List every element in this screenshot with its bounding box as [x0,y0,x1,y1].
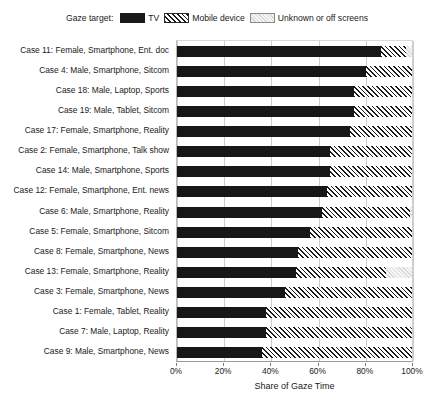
x-tick-label: 60% [309,366,326,376]
gaze-share-stacked-bar-chart: Gaze target: TV Mobile device Unknown or… [0,0,434,415]
legend-title: Gaze target: [66,13,113,23]
gridline [413,41,414,361]
bar-segment-mobile [354,86,412,97]
bar-segment-mobile [285,287,412,298]
bar-segment-mobile [262,347,412,358]
legend-swatch-unknown-icon [250,13,275,23]
bar-segment-tv [177,86,354,97]
bar-segment-tv [177,307,266,318]
x-tick-label: 0% [170,366,182,376]
x-tick-label: 40% [262,366,279,376]
category-label: Case 8: Female, Smartphone, News [34,246,169,257]
bar-segment-mobile [327,186,412,197]
bar-row [177,347,412,358]
x-tick-label: 100% [401,366,422,376]
bar-segment-mobile [330,166,412,177]
legend-label-mobile: Mobile device [192,13,245,23]
category-label: Case 2: Female, Smartphone, Talk show [18,145,169,156]
bar-row [177,166,412,177]
x-axis-title: Share of Gaze Time [176,381,413,391]
bar-row [177,46,412,57]
legend-entry-tv: TV [120,13,159,23]
category-label: Case 7: Male, Laptop, Reality [59,326,169,337]
bar-segment-mobile [298,247,412,258]
category-label: Case 11: Female, Smartphone, Ent. doc [20,45,169,56]
bar-segment-mobile [296,267,386,278]
bar-row [177,247,412,258]
category-axis-labels: Case 11: Female, Smartphone, Ent. docCas… [0,40,174,362]
category-label: Case 14: Male, Smartphone, Sports [36,165,169,176]
legend-entry-mobile: Mobile device [164,13,245,23]
bar-segment-tv [177,327,266,338]
category-label: Case 13: Female, Smartphone, Reality [25,266,169,277]
chart-legend: Gaze target: TV Mobile device Unknown or… [0,13,434,23]
bar-segment-tv [177,227,310,238]
bar-row [177,307,412,318]
legend-label-tv: TV [148,13,159,23]
value-axis-ticks: 0%20%40%60%80%100% [176,363,413,375]
bar-rows [177,41,412,361]
bar-row [177,66,412,77]
bar-row [177,227,412,238]
bar-segment-unknown [410,207,412,218]
bar-segment-mobile [354,106,412,117]
bar-segment-tv [177,207,322,218]
bar-segment-mobile [330,146,412,157]
bar-segment-tv [177,186,327,197]
legend-swatch-tv-icon [120,13,145,23]
category-label: Case 19: Male, Tablet, Sitcom [58,105,169,116]
category-label: Case 3: Female, Smartphone, News [34,286,169,297]
category-label: Case 18: Male, Laptop, Sports [56,85,169,96]
legend-entry-unknown: Unknown or off screens [250,13,368,23]
bar-segment-mobile [350,126,412,137]
bar-segment-mobile [366,66,412,77]
bar-segment-tv [177,66,366,77]
bar-segment-tv [177,106,354,117]
category-label: Case 1: Female, Tablet, Reality [53,306,169,317]
bar-segment-tv [177,126,350,137]
bar-segment-unknown [406,46,412,57]
bar-segment-tv [177,46,381,57]
category-label: Case 4: Male, Smartphone, Sitcom [39,65,169,76]
bar-segment-tv [177,267,296,278]
category-label: Case 5: Female, Smartphone, Sitcom [29,226,169,237]
bar-row [177,267,412,278]
x-tick-label: 80% [356,366,373,376]
bar-segment-unknown [386,267,412,278]
bar-segment-mobile [310,227,412,238]
legend-label-unknown: Unknown or off screens [278,13,368,23]
bar-row [177,146,412,157]
bar-segment-mobile [322,207,410,218]
plot-area [176,40,413,362]
bar-segment-mobile [266,307,412,318]
bar-row [177,106,412,117]
bar-row [177,186,412,197]
bar-segment-tv [177,247,298,258]
legend-swatch-mobile-icon [164,13,189,23]
bar-segment-mobile [381,46,406,57]
bar-row [177,327,412,338]
bar-row [177,207,412,218]
x-tick-label: 20% [215,366,232,376]
bar-row [177,86,412,97]
bar-row [177,287,412,298]
bar-segment-tv [177,166,330,177]
category-label: Case 9: Male, Smartphone, News [44,346,169,357]
bar-segment-mobile [266,327,412,338]
bar-segment-tv [177,347,262,358]
bar-row [177,126,412,137]
category-label: Case 12: Female, Smartphone, Ent. news [14,185,169,196]
category-label: Case 6: Male, Smartphone, Reality [39,206,169,217]
bar-segment-tv [177,146,330,157]
category-label: Case 17: Female, Smartphone, Reality [25,125,169,136]
bar-segment-tv [177,287,285,298]
